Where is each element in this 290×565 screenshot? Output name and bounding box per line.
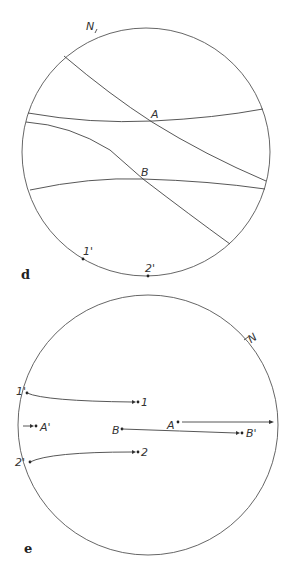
point-2-prime-d [147, 275, 150, 278]
panel-label-e: e [24, 541, 32, 556]
point-label-1-e: 1 [141, 396, 148, 409]
great-circle-lower-diagonal [26, 122, 230, 244]
point-label-a-d: A [150, 108, 159, 121]
point-label-2-prime-d: 2' [145, 262, 155, 275]
point-a-e [177, 421, 180, 424]
north-label-e: N [245, 331, 259, 346]
arrowhead-b [236, 431, 240, 435]
arrowhead-1 [132, 400, 136, 404]
point-label-2-prime-e: 2' [15, 456, 25, 469]
point-2-e [137, 451, 140, 454]
north-label-d: N [86, 20, 94, 33]
arrowhead-a [269, 420, 274, 424]
rotation-path-2 [30, 452, 132, 462]
point-label-a-e: A [166, 419, 175, 432]
stereonet-figure: N A B 1' 2' d N 1' 1 A' [0, 0, 290, 565]
point-label-2-e: 2 [141, 446, 148, 459]
rotation-path-b [122, 429, 236, 433]
point-1-e [137, 401, 140, 404]
point-label-1-prime-e: 1' [16, 385, 26, 398]
panel-d: N A B 1' 2' d [21, 20, 270, 282]
great-circle-lower-horizontal [30, 179, 265, 190]
rotation-path-1 [27, 393, 132, 402]
point-a-prime-e [35, 425, 38, 428]
great-circle-upper-horizontal [28, 109, 263, 122]
panel-label-d: d [21, 267, 30, 282]
point-b-prime-e [241, 432, 244, 435]
arrowhead-a-prime [30, 424, 34, 428]
point-label-b-prime-e: B' [246, 427, 257, 440]
great-circle-upper-diagonal [64, 56, 266, 181]
north-tick-d [95, 29, 97, 33]
arrowhead-2 [132, 450, 136, 454]
point-label-a-prime-e: A' [39, 421, 51, 434]
point-label-b-e: B [112, 424, 120, 437]
point-label-b-d: B [141, 166, 149, 179]
point-label-1-prime-d: 1' [83, 245, 93, 258]
panel-e: N 1' 1 A' A B B' 2' 2 e [15, 295, 278, 556]
primitive-circle-e [18, 295, 278, 555]
primitive-circle-d [22, 28, 270, 276]
point-1-prime-d [82, 258, 85, 261]
